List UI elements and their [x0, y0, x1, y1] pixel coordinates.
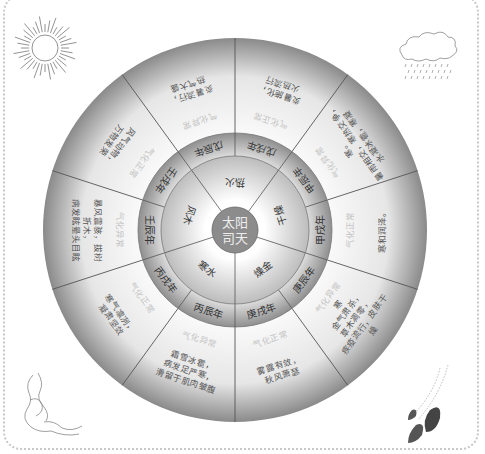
rain-cloud-icon — [400, 32, 457, 79]
year-label: 甲戌年 — [314, 215, 326, 245]
sector-label: 气化异常 — [115, 212, 125, 248]
year-label: 壬辰年 — [144, 215, 156, 245]
center-line1: 太阳 — [222, 215, 248, 230]
qi-label: 热火 — [225, 177, 245, 189]
sector-text: 折木， — [82, 217, 92, 244]
wind-swirl-icon — [25, 373, 82, 435]
sector-label: 气化正常 — [345, 212, 355, 248]
taiyang-sitian-diagram: 气化正常炎暑施化，火热流行气化异常寒。暑雨相交，寒热交争，水凝冰雹，寒凝气化正常… — [0, 0, 485, 454]
sector-text: 病发眩晕头目眩 — [71, 199, 81, 262]
sun-icon — [13, 16, 76, 79]
falling-leaves-icon — [408, 365, 448, 443]
sector-text: 暴风震骇，拔树 — [93, 199, 103, 262]
center-line2: 司天 — [222, 231, 248, 246]
center-circle — [212, 207, 258, 253]
sector-text: 寒和润泽。 — [377, 208, 387, 253]
